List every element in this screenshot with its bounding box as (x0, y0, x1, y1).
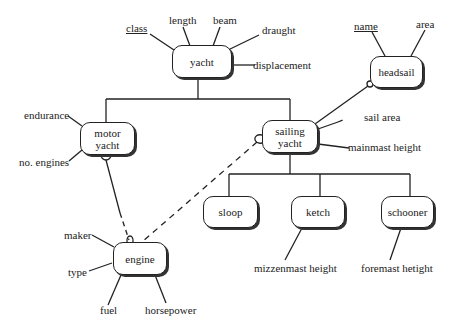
line-sail-area-solid (318, 122, 338, 129)
entity-sailing-yacht: sailing yacht (262, 120, 318, 153)
attr-length: length (169, 14, 197, 26)
attr-foremast-height: foremast hetight (361, 262, 433, 274)
attr-name: name (354, 20, 378, 32)
entity-schooner: schooner (381, 196, 434, 228)
line-no-engines (69, 150, 82, 161)
line-sail-area-dash (338, 119, 345, 122)
line-mainmast-height (318, 144, 349, 148)
entity-ketch: ketch (291, 196, 345, 228)
line-headsail-name (372, 32, 385, 56)
line-maker (92, 235, 114, 247)
line-fuel (108, 275, 121, 305)
attr-maker: maker (64, 229, 91, 241)
attr-endurance: endurance (24, 109, 69, 121)
attr-type: type (68, 266, 87, 278)
attr-mizzenmast-height: mizzenmast height (254, 262, 337, 274)
line-horsepower (155, 275, 166, 303)
line-motor-engine-dashed (120, 213, 129, 240)
attr-mainmast-height: mainmast height (348, 141, 421, 153)
entity-label-line1: sailing (275, 125, 304, 137)
line-endurance (68, 116, 82, 126)
entity-label-line1: motor (94, 127, 120, 139)
entity-motor-yacht: motor yacht (80, 122, 135, 155)
attr-area: area (416, 18, 434, 30)
attr-sail-area: sail area (364, 111, 400, 123)
attr-no-engines: no. engines (19, 156, 69, 168)
line-mizzenmast-height (285, 228, 302, 260)
optional-arc-motor-yacht (101, 155, 111, 160)
entity-label: engine (125, 253, 154, 265)
line-type (89, 263, 112, 271)
line-yacht-draught (226, 35, 259, 51)
entity-label: yacht (190, 56, 214, 68)
entity-label-line2: yacht (96, 139, 120, 151)
entity-label: sloop (219, 206, 243, 218)
optional-loop-sailing-yacht (255, 135, 262, 143)
line-sailing-yacht-headsail (315, 86, 368, 124)
line-headsail-area (411, 30, 425, 56)
entity-yacht: yacht (172, 45, 232, 78)
entity-engine: engine (113, 242, 167, 275)
line-yacht-class (150, 34, 174, 50)
attr-class: class (126, 22, 147, 34)
entity-label: headsail (378, 66, 414, 78)
line-motor-engine-solid (106, 160, 120, 213)
line-yacht-beam (213, 27, 220, 46)
entity-label: schooner (388, 206, 428, 218)
line-yacht-length (183, 27, 190, 46)
attr-horsepower: horsepower (145, 304, 196, 316)
entity-label-line2: yacht (278, 137, 302, 149)
er-diagram: yacht headsail motor yacht sailing yacht… (0, 0, 457, 327)
attr-displacement: displacement (253, 59, 311, 71)
attr-draught: draught (262, 24, 296, 36)
attr-fuel: fuel (100, 304, 117, 316)
entity-sloop: sloop (203, 196, 258, 228)
line-foremast-height (390, 228, 401, 260)
entity-label: ketch (306, 206, 330, 218)
attr-beam: beam (213, 14, 237, 26)
entity-headsail: headsail (370, 56, 423, 88)
